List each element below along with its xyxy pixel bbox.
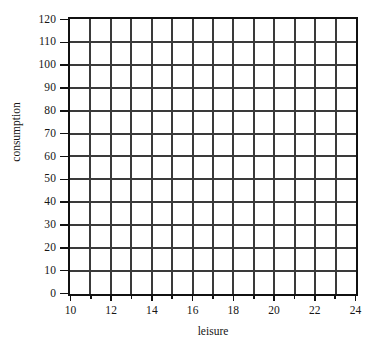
x-axis-tick-label: 22	[309, 305, 321, 317]
x-axis-tick-label: 24	[350, 305, 362, 317]
x-axis-tick-labels: 1012141618202224	[0, 0, 384, 351]
x-axis-tick-label: 14	[146, 305, 158, 317]
x-axis-tick-label: 12	[105, 305, 117, 317]
x-axis-tick-label: 10	[65, 305, 77, 317]
x-axis-tick-label: 20	[268, 305, 280, 317]
x-axis-title: leisure	[68, 325, 358, 337]
x-axis-tick-label: 18	[227, 305, 239, 317]
chart-figure: 0102030405060708090100110120 consumption…	[0, 0, 384, 351]
x-axis-tick-label: 16	[187, 305, 199, 317]
